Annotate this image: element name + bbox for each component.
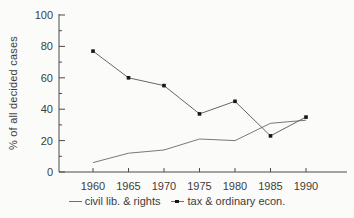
legend-item-tax: tax & ordinary econ. — [171, 195, 285, 207]
y-axis-tick-label: 100 — [35, 9, 53, 21]
series-1-marker — [198, 112, 202, 116]
legend-label-tax: tax & ordinary econ. — [187, 195, 285, 207]
x-axis-tick-label: 1965 — [116, 180, 140, 192]
x-axis-tick-label: 1970 — [152, 180, 176, 192]
y-axis-tick-label: 60 — [41, 72, 53, 84]
series-1-marker — [269, 134, 273, 138]
chart-plot: 0204060801001960196519701975198019851990 — [0, 0, 354, 218]
legend: civil lib. & rights tax & ordinary econ. — [0, 195, 354, 207]
x-axis-tick-label: 1975 — [187, 180, 211, 192]
series-1-marker — [91, 49, 95, 53]
y-axis-tick-label: 40 — [41, 103, 53, 115]
series-1-marker — [233, 100, 237, 104]
series-line-0 — [93, 120, 306, 162]
series-1-marker — [304, 115, 308, 119]
x-axis-tick-label: 1980 — [223, 180, 247, 192]
line-chart-figure: 0204060801001960196519701975198019851990… — [0, 0, 354, 218]
y-axis-tick-label: 20 — [41, 135, 53, 147]
y-axis-tick-label: 0 — [47, 166, 53, 178]
y-axis-tick-label: 80 — [41, 40, 53, 52]
legend-label-civil: civil lib. & rights — [85, 195, 161, 207]
legend-item-civil: civil lib. & rights — [69, 195, 161, 207]
y-axis-title: % of all decided cases — [7, 36, 19, 150]
series-1-marker — [127, 76, 131, 80]
line-dot-symbol-icon — [171, 199, 184, 204]
x-axis-tick-label: 1985 — [258, 180, 282, 192]
x-axis-tick-label: 1990 — [294, 180, 318, 192]
x-axis-tick-label: 1960 — [81, 180, 105, 192]
series-1-marker — [162, 84, 166, 88]
plain-line-symbol-icon — [69, 201, 82, 202]
